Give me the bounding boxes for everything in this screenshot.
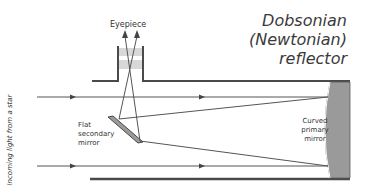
secondary-label-line-1: Flat <box>78 121 114 130</box>
incoming-light-label: Incoming light from a star <box>6 85 14 195</box>
title-line-3: reflector <box>207 49 347 68</box>
primary-label-line-3: mirror <box>297 135 333 144</box>
primary-label-line-2: primary <box>297 126 333 135</box>
secondary-label-line-3: mirror <box>78 139 114 148</box>
primary-label-line-1: Curved <box>297 117 333 126</box>
telescope-diagram: Dobsonian (Newtonian) reflector Eyepiece… <box>0 0 371 195</box>
title-line-2: (Newtonian) <box>207 30 347 49</box>
eyepiece-label: Eyepiece <box>110 20 146 29</box>
secondary-mirror-label: Flat secondary mirror <box>78 121 114 148</box>
primary-mirror-label: Curved primary mirror <box>297 117 333 144</box>
title-line-1: Dobsonian <box>207 11 347 30</box>
secondary-label-line-2: secondary <box>78 130 114 139</box>
diagram-title: Dobsonian (Newtonian) reflector <box>207 11 347 68</box>
